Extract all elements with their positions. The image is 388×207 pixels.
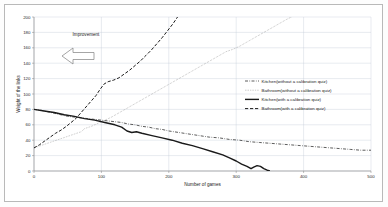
y-tick-label: 140	[23, 61, 31, 66]
legend-label-1: Bathroom(without a calibration quiz)	[262, 88, 333, 93]
y-tick-label: 160	[23, 45, 31, 50]
annotation-label: Improvement	[73, 32, 101, 37]
y-axis-title: Weight of the links	[16, 75, 21, 113]
y-tick-label: 180	[23, 30, 31, 35]
legend-label-2: Kitchen(with a calibration quiz)	[262, 97, 322, 102]
chart-figure: 0204060801001201401601802000100200300400…	[0, 0, 388, 207]
x-tick-label: 300	[233, 174, 241, 179]
legend-label-0: Kitchen(without a calibration quiz)	[262, 79, 328, 84]
line-chart: 0204060801001201401601802000100200300400…	[0, 0, 388, 207]
y-tick-label: 0	[28, 169, 31, 174]
x-tick-label: 500	[367, 174, 375, 179]
x-tick-label: 100	[98, 174, 106, 179]
x-axis-title: Number of games	[184, 182, 221, 187]
y-tick-label: 20	[26, 153, 31, 158]
y-tick-label: 80	[26, 107, 31, 112]
legend-label-3: Bathroom(with a calibration quiz)	[262, 106, 326, 111]
x-tick-label: 200	[165, 174, 173, 179]
y-tick-label: 40	[26, 138, 31, 143]
y-tick-label: 200	[23, 15, 31, 20]
y-tick-label: 100	[23, 92, 31, 97]
x-tick-label: 0	[33, 174, 36, 179]
y-tick-label: 60	[26, 122, 31, 127]
y-tick-label: 120	[23, 76, 31, 81]
x-tick-label: 400	[300, 174, 308, 179]
